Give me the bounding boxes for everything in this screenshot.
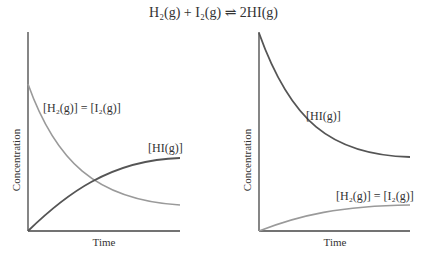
right-x-label: Time: [324, 236, 347, 248]
charts: [H₂(g)] = [I₂(g)] [HI(g)] Time Concentra…: [0, 0, 427, 257]
right-h2-label: [H₂(g)] = [I₂(g)]: [336, 189, 414, 203]
left-h2-label: [H₂(g)] = [I₂(g)]: [43, 101, 121, 115]
left-x-label: Time: [93, 236, 116, 248]
left-chart: [H₂(g)] = [I₂(g)] [HI(g)] Time Concentra…: [10, 32, 183, 248]
right-hi-curve: [259, 33, 410, 157]
right-hi-label: [HI(g)]: [306, 109, 341, 123]
left-y-label: Concentration: [10, 128, 22, 191]
right-chart: [HI(g)] [H₂(g)] = [I₂(g)] Time Concentra…: [241, 32, 414, 248]
left-hi-curve: [28, 158, 180, 231]
left-hi-label: [HI(g)]: [148, 141, 183, 155]
right-y-label: Concentration: [241, 128, 253, 191]
right-h2-curve: [259, 205, 410, 231]
